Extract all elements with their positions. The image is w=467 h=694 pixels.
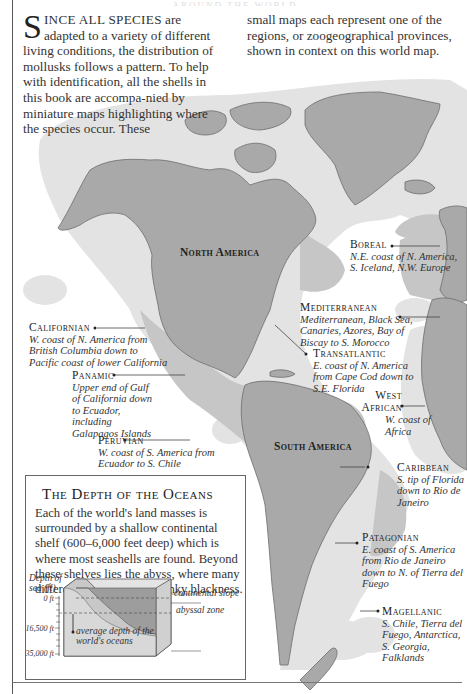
province-desc: Mediterranean, Black Sea, Canaries, Azor… [300,314,430,349]
province-desc: W. coast of N. America from British Colu… [29,334,169,369]
province-desc: N.E. coast of N. America, S. Iceland, N.… [350,251,460,274]
province-desc: Upper end of Gulf of California down to … [72,382,157,440]
diagram-axis-title: Depth of sea (ft) [29,573,69,593]
province-patagonian: Patagonian E. coast of S. America from R… [362,532,467,590]
province-name: Caribbean [397,462,465,474]
province-name: Patagonian [362,532,467,544]
diagram-label-abyssal-zone: abyssal zone [176,605,246,615]
bottom-rule [12,682,462,683]
province-desc: S. tip of Florida down to Rio de Janeiro [397,474,465,509]
diagram-label-average-depth: average depth of the world's oceans [76,626,156,646]
dropcap: S [23,13,42,41]
province-panamic: Panamic Upper end of Gulf of California … [72,370,157,439]
depth-of-oceans-box: The Depth of the Oceans Each of the worl… [25,475,246,680]
intro-paragraph-left: SINCE ALL SPECIES are adapted to a varie… [23,12,223,137]
province-name: Mediterranean [300,302,430,314]
province-name: Transatlantic [313,348,423,360]
province-desc: E. coast of N. America from Cape Cod dow… [313,360,423,395]
province-magellanic: Magellanic S. Chile, Tierra del Fuego, A… [382,606,467,664]
province-name: Peruvian [98,435,218,447]
province-desc: E. coast of S. America from Rio de Janei… [362,544,467,590]
province-name: Magellanic [382,606,467,618]
province-name: Boreal [350,239,460,251]
province-west-african-desc: W. coast of Africa [385,414,445,437]
intro-paragraph-right: small maps each represent one of the reg… [247,12,462,59]
diagram-tick-35000: 35,000 ft [24,649,54,659]
province-transatlantic: Transatlantic E. coast of N. America fro… [313,348,423,394]
continent-label-south-america: South America [274,440,352,452]
province-name: West African [350,390,402,413]
province-west-african: West African [350,390,402,413]
province-boreal: Boreal N.E. coast of N. America, S. Icel… [350,239,460,274]
province-name: Panamic [72,370,157,382]
intro-smallcaps-lead: INCE ALL SPECIES [44,12,162,27]
province-desc: S. Chile, Tierra del Fuego, Antarctica, … [382,618,467,664]
province-name: Californian [29,322,169,334]
province-peruvian: Peruvian W. coast of S. America from Ecu… [98,435,218,470]
diagram-label-continental-slope: continental slope [174,588,244,598]
province-desc: W. coast of Africa [385,414,445,437]
province-mediterranean: Mediterranean Mediterranean, Black Sea, … [300,302,430,348]
province-californian: Californian W. coast of N. America from … [29,322,169,368]
diagram-tick-16500: 16,500 ft [24,624,54,634]
province-caribbean: Caribbean S. tip of Florida down to Rio … [397,462,465,508]
diagram-tick-0: 0 ft [34,594,54,604]
depth-box-title: The Depth of the Oceans [42,486,213,503]
intro-left-text: are adapted to a variety of different li… [23,12,213,136]
continent-label-north-america: North America [180,246,259,258]
province-desc: W. coast of S. America from Ecuador to S… [98,447,218,470]
